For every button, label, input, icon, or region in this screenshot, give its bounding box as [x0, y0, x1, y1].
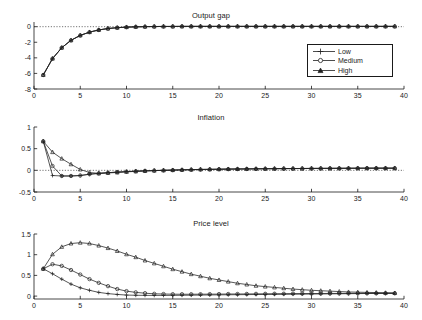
svg-text:20: 20	[215, 92, 223, 99]
legend-marker-triangle-icon	[312, 66, 336, 75]
svg-text:15: 15	[169, 195, 177, 202]
svg-text:0: 0	[32, 302, 36, 309]
legend-label-high: High	[338, 66, 352, 75]
figure-impulse-responses: Output gap 0510152025303540-8-6-4-20 Low…	[0, 0, 422, 320]
svg-text:10: 10	[123, 195, 131, 202]
svg-text:0.5: 0.5	[21, 145, 31, 152]
svg-text:10: 10	[123, 92, 131, 99]
plot-price-level: 051015202530354000.511.5	[0, 215, 422, 320]
svg-text:-4: -4	[25, 54, 31, 61]
svg-text:30: 30	[308, 302, 316, 309]
legend-output-gap: Low Medium High	[307, 44, 393, 77]
legend-label-medium: Medium	[338, 56, 363, 65]
svg-text:0: 0	[32, 195, 36, 202]
legend-label-low: Low	[338, 47, 351, 56]
panel-price-level: Price level 051015202530354000.511.5	[0, 215, 422, 320]
svg-text:35: 35	[354, 92, 362, 99]
svg-text:40: 40	[400, 302, 408, 309]
legend-entry-medium: Medium	[312, 56, 388, 65]
panel-inflation: Inflation 0510152025303540-0.500.51	[0, 110, 422, 215]
svg-text:25: 25	[261, 195, 269, 202]
legend-marker-circle-icon	[312, 56, 336, 65]
svg-text:15: 15	[169, 92, 177, 99]
svg-text:0: 0	[27, 23, 31, 30]
svg-text:-0.5: -0.5	[19, 189, 31, 196]
svg-text:25: 25	[261, 92, 269, 99]
panel-output-gap: Output gap 0510152025303540-8-6-4-20 Low…	[0, 0, 422, 110]
svg-text:1: 1	[27, 124, 31, 131]
svg-text:-6: -6	[25, 70, 31, 77]
svg-text:35: 35	[354, 302, 362, 309]
svg-text:-8: -8	[25, 86, 31, 93]
svg-text:30: 30	[308, 92, 316, 99]
svg-text:5: 5	[78, 92, 82, 99]
plot-inflation: 0510152025303540-0.500.51	[0, 110, 422, 215]
svg-text:5: 5	[78, 302, 82, 309]
svg-text:0: 0	[27, 167, 31, 174]
svg-text:10: 10	[123, 302, 131, 309]
svg-text:5: 5	[78, 195, 82, 202]
svg-text:0.5: 0.5	[21, 272, 31, 279]
svg-text:20: 20	[215, 302, 223, 309]
svg-text:20: 20	[215, 195, 223, 202]
svg-text:0: 0	[27, 293, 31, 300]
svg-text:-2: -2	[25, 39, 31, 46]
svg-text:1.5: 1.5	[21, 231, 31, 238]
svg-text:35: 35	[354, 195, 362, 202]
svg-text:40: 40	[400, 92, 408, 99]
svg-text:40: 40	[400, 195, 408, 202]
legend-marker-plus-icon	[312, 47, 336, 56]
svg-text:0: 0	[32, 92, 36, 99]
svg-text:15: 15	[169, 302, 177, 309]
legend-entry-high: High	[312, 66, 388, 75]
legend-entry-low: Low	[312, 47, 388, 56]
svg-text:25: 25	[261, 302, 269, 309]
svg-text:30: 30	[308, 195, 316, 202]
svg-text:1: 1	[27, 251, 31, 258]
